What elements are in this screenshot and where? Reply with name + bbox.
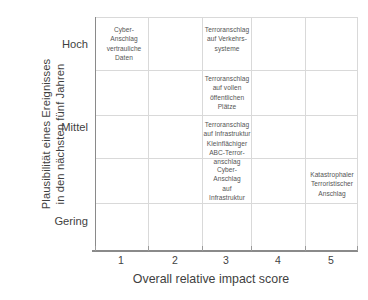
data-point-cyber-anschlag-vertrauliche-daten: Cyber- Anschlag vertrauliche Daten xyxy=(101,25,147,62)
y-axis-tick-labels: Hoch Mittel Gering xyxy=(0,0,88,300)
cell-line: Terroristischer xyxy=(307,179,357,188)
risk-matrix-chart: Plausibilität eines Ereignisses in den n… xyxy=(0,0,368,300)
x-axis-tick-mark xyxy=(95,246,96,251)
x-tick-2: 2 xyxy=(172,254,178,266)
cell-line: auf Verkehrs- xyxy=(203,34,251,43)
cell-line: ABC-Terror- xyxy=(201,148,253,157)
data-point-katastrophaler-terroristischer-anschlag: Katastrophaler Terroristischer Anschlag xyxy=(307,170,357,198)
cell-line: auf xyxy=(203,184,251,193)
cell-line: Katastrophaler xyxy=(307,170,357,179)
cell-line: Anschlag xyxy=(101,34,147,43)
cell-line: systeme xyxy=(203,44,251,53)
x-axis-tick-mark xyxy=(251,246,252,251)
cell-line: auf Infrastruktur xyxy=(201,129,253,138)
y-tick-hoch: Hoch xyxy=(62,38,88,50)
cell-line: Kleinflächiger xyxy=(201,139,253,148)
x-axis-tick-mark xyxy=(305,246,306,251)
data-point-cyber-anschlag-infrastruktur: Cyber- Anschlag auf Infrastruktur xyxy=(203,165,251,202)
gridline-vertical-5 xyxy=(357,17,358,250)
y-tick-gering: Gering xyxy=(54,215,88,227)
cell-line: Daten xyxy=(101,53,147,62)
gridline-vertical-1 xyxy=(148,17,149,250)
gridline-horizontal-2 xyxy=(95,115,358,116)
x-tick-4: 4 xyxy=(275,254,281,266)
data-point-terroranschlag-oeffentliche-plaetze: Terroranschlag auf vollen öffentlichen P… xyxy=(203,74,251,111)
cell-line: Plätze xyxy=(203,102,251,111)
y-axis-line xyxy=(95,17,96,251)
cell-line: Terroranschlag xyxy=(201,120,253,129)
cell-line: Cyber- xyxy=(101,25,147,34)
x-axis-tick-mark xyxy=(202,246,203,251)
x-axis-line xyxy=(92,250,358,252)
gridline-horizontal-4 xyxy=(95,203,358,204)
data-point-terroranschlag-infrastruktur-abc: Terroranschlag auf Infrastruktur Kleinfl… xyxy=(201,120,253,167)
cell-line: Anschlag xyxy=(203,174,251,183)
x-tick-3: 3 xyxy=(223,254,229,266)
plot-area: Cyber- Anschlag vertrauliche Daten Terro… xyxy=(95,17,358,250)
gridline-horizontal-0 xyxy=(95,17,358,18)
gridline-horizontal-1 xyxy=(95,70,358,71)
cell-line: Terroranschlag xyxy=(203,25,251,34)
cell-line: vertrauliche xyxy=(101,44,147,53)
x-tick-5: 5 xyxy=(328,254,334,266)
gridline-vertical-4 xyxy=(305,17,306,250)
x-axis-tick-mark xyxy=(148,246,149,251)
cell-line: auf vollen xyxy=(203,83,251,92)
x-axis-tick-mark xyxy=(357,246,358,251)
x-axis-label: Overall relative impact score xyxy=(0,272,368,286)
y-tick-mittel: Mittel xyxy=(61,121,88,133)
cell-line: öffentlichen xyxy=(203,93,251,102)
data-point-terroranschlag-verkehrssysteme: Terroranschlag auf Verkehrs- systeme xyxy=(203,25,251,53)
x-tick-1: 1 xyxy=(118,254,124,266)
cell-line: Cyber- xyxy=(203,165,251,174)
cell-line: Terroranschlag xyxy=(203,74,251,83)
cell-line: Anschlag xyxy=(307,189,357,198)
cell-line: Infrastruktur xyxy=(203,193,251,202)
